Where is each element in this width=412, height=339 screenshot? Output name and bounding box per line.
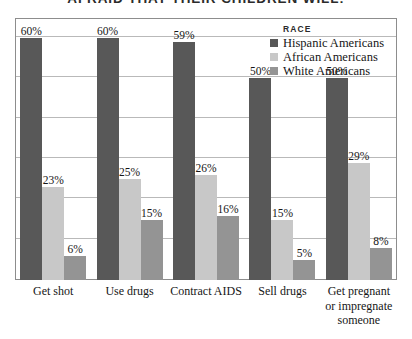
bar-slot: 59% <box>173 18 195 280</box>
bar[interactable] <box>370 248 392 280</box>
bar-value-label: 60% <box>97 25 118 37</box>
bar-slot: 15% <box>141 18 163 280</box>
bar-value-label: 25% <box>119 166 140 178</box>
x-axis-labels: Get shotUse drugsContract AIDSSell drugs… <box>15 284 397 328</box>
legend-item-african-americans[interactable]: African Americans <box>270 50 394 64</box>
bar-group: 60%25%15% <box>91 18 167 280</box>
legend-item-hispanic-americans[interactable]: Hispanic Americans <box>270 36 394 50</box>
bar-value-label: 59% <box>173 29 194 41</box>
x-axis-label: Use drugs <box>91 284 167 328</box>
bar-value-label: 5% <box>297 247 312 259</box>
legend-item-white-americans[interactable]: White Americans <box>270 64 394 78</box>
bar[interactable] <box>20 38 42 280</box>
legend-item-label: Hispanic Americans <box>283 37 384 50</box>
legend-item-label: White Americans <box>283 65 370 78</box>
bar-slot: 6% <box>64 18 86 280</box>
bar-slot: 25% <box>119 18 141 280</box>
bar-value-label: 29% <box>348 150 369 162</box>
bar-value-label: 16% <box>217 203 238 215</box>
bar-value-label: 15% <box>272 207 293 219</box>
bar[interactable] <box>348 163 370 280</box>
bar-group-bars: 60%23%6% <box>15 18 91 280</box>
bar-group: 59%26%16% <box>168 18 244 280</box>
bar[interactable] <box>326 78 348 280</box>
bar-value-label: 15% <box>141 207 162 219</box>
legend: RACE Hispanic Americans African American… <box>262 21 394 82</box>
x-axis-label: Sell drugs <box>244 284 320 328</box>
bar[interactable] <box>141 220 163 280</box>
bar[interactable] <box>42 187 64 280</box>
legend-title: RACE <box>270 24 394 34</box>
bar-group: 60%23%6% <box>15 18 91 280</box>
bar-value-label: 23% <box>43 174 64 186</box>
bar-slot: 26% <box>195 18 217 280</box>
bar[interactable] <box>119 179 141 280</box>
bar[interactable] <box>271 220 293 280</box>
bar-value-label: 8% <box>373 235 388 247</box>
page-title: AFRAID THAT THEIR CHILDREN WILL: <box>0 0 412 6</box>
bar-value-label: 6% <box>68 243 83 255</box>
bar-group-bars: 59%26%16% <box>168 18 244 280</box>
legend-swatch-icon <box>270 39 278 47</box>
bar[interactable] <box>64 256 86 280</box>
bar[interactable] <box>97 38 119 280</box>
x-axis-label: Get shot <box>15 284 91 328</box>
bar[interactable] <box>293 260 315 280</box>
bar-slot: 23% <box>42 18 64 280</box>
bar-slot: 60% <box>20 18 42 280</box>
legend-item-label: African Americans <box>283 51 378 64</box>
bar-slot: 16% <box>217 18 239 280</box>
bar-value-label: 60% <box>21 25 42 37</box>
legend-swatch-icon <box>270 53 278 61</box>
bar[interactable] <box>217 216 239 280</box>
bar[interactable] <box>173 42 195 280</box>
bar[interactable] <box>195 175 217 280</box>
x-axis-label: Contract AIDS <box>168 284 244 328</box>
legend-swatch-icon <box>270 67 278 75</box>
bar-value-label: 26% <box>195 162 216 174</box>
bar[interactable] <box>249 78 271 280</box>
bar-group-bars: 60%25%15% <box>91 18 167 280</box>
bar-slot: 60% <box>97 18 119 280</box>
x-axis-label: Get pregnant or impregnate someone <box>321 284 397 328</box>
